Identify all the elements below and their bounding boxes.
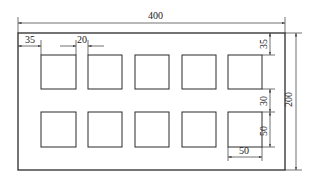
dim-overall-height: 200: [283, 33, 302, 170]
dim-opening-height: 50: [258, 112, 270, 147]
dim-left-margin: 35: [18, 34, 41, 55]
dim-column-gap: 20: [60, 34, 104, 55]
dim-label-200: 200: [283, 92, 294, 107]
opening: [88, 112, 122, 147]
openings-row-1: [41, 55, 262, 89]
dim-row-gap: 30: [258, 89, 270, 112]
dim-label-30: 30: [258, 96, 269, 106]
dim-label-50-horizontal: 50: [239, 145, 249, 156]
dim-label-400: 400: [148, 10, 163, 21]
dim-label-20: 20: [77, 34, 87, 45]
opening: [228, 55, 262, 89]
opening: [88, 55, 122, 89]
dim-overall-width: 400: [18, 10, 285, 33]
dim-label-50-vertical: 50: [258, 126, 269, 136]
dim-label-35-left: 35: [25, 34, 35, 45]
opening: [41, 55, 76, 89]
opening: [41, 112, 76, 147]
opening: [182, 112, 216, 147]
opening: [135, 112, 169, 147]
dim-top-margin: 35: [258, 33, 270, 55]
opening: [182, 55, 216, 89]
dim-label-35-top: 35: [258, 39, 269, 49]
opening: [135, 55, 169, 89]
plate-drawing: 400 35 20 35 30 50 50: [0, 0, 313, 181]
openings-row-2: [41, 112, 262, 147]
opening: [228, 112, 262, 147]
